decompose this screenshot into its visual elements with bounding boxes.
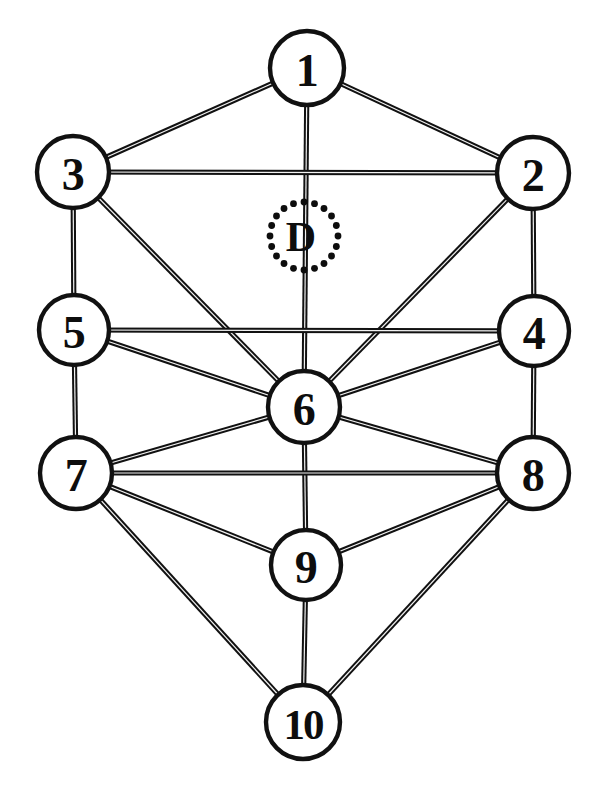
- edge-5-4: [74, 330, 534, 331]
- node-label-1: 1: [296, 45, 319, 96]
- node-label-6: 6: [293, 384, 316, 435]
- edge-7-10: [76, 473, 303, 722]
- node-label-3: 3: [62, 149, 85, 200]
- node-label-9: 9: [295, 542, 318, 593]
- daath-label: D: [286, 214, 316, 260]
- node-label-5: 5: [63, 307, 86, 358]
- node-8[interactable]: 8: [497, 437, 569, 509]
- node-3[interactable]: 3: [37, 136, 109, 208]
- tree-of-life-diagram: D 13254678910: [0, 0, 606, 789]
- graph-canvas: D 13254678910: [0, 0, 606, 789]
- edge-3-2: [73, 172, 533, 173]
- node-label-10: 10: [284, 701, 324, 748]
- node-4[interactable]: 4: [499, 296, 569, 366]
- node-label-2: 2: [522, 150, 545, 201]
- edge-3-6: [73, 172, 304, 407]
- node-5[interactable]: 5: [39, 295, 109, 365]
- node-label-8: 8: [522, 450, 545, 501]
- node-2[interactable]: 2: [497, 137, 569, 209]
- edge-8-10: [303, 473, 533, 722]
- node-label-4: 4: [523, 308, 546, 359]
- node-label-7: 7: [65, 450, 88, 501]
- node-10[interactable]: 10: [266, 685, 340, 759]
- node-1[interactable]: 1: [270, 31, 344, 105]
- node-9[interactable]: 9: [271, 530, 341, 600]
- node-7[interactable]: 7: [40, 437, 112, 509]
- node-6[interactable]: 6: [268, 371, 340, 443]
